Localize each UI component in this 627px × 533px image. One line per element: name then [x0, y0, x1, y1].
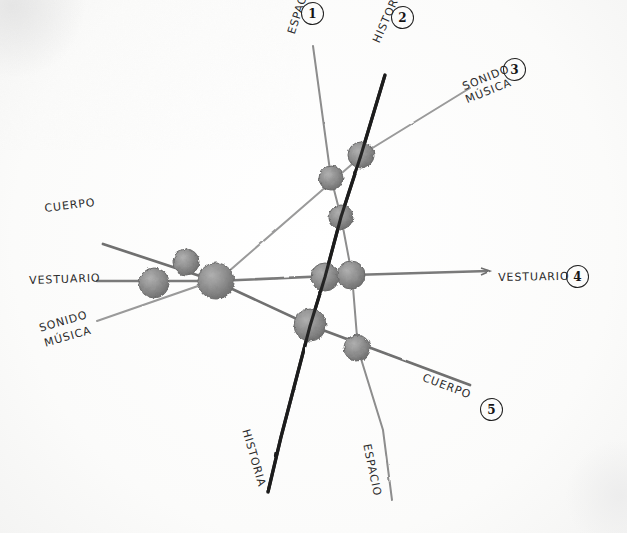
axis-number-3: 3	[503, 58, 526, 81]
diagram-canvas	[0, 0, 627, 533]
label-vestuario-left: VESTUARIO	[29, 273, 101, 287]
node-espacio-cuerpo	[344, 335, 370, 361]
node-vestuario-sonido	[139, 268, 169, 298]
axis-number-4: 4	[566, 265, 589, 288]
axis-line-cuerpo	[103, 244, 470, 385]
axis-number-2: 2	[391, 6, 414, 29]
axis-number-1: 1	[301, 2, 324, 25]
node-espacio-vestuario	[337, 261, 365, 289]
node-cuerpo-sonido	[173, 249, 199, 275]
intersection-nodes	[139, 142, 374, 361]
label-vestuario-right: VESTUARIO	[498, 271, 570, 284]
node-cuerpo-vestuario	[198, 263, 234, 299]
node-espacio-sonido	[319, 166, 343, 190]
axis-number-5: 5	[480, 398, 503, 421]
